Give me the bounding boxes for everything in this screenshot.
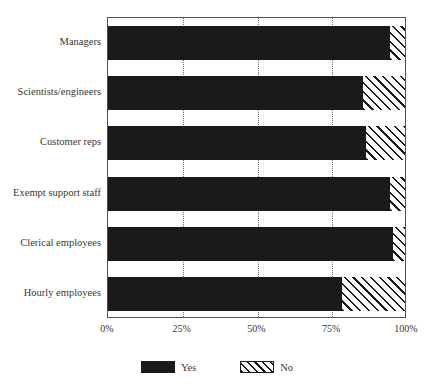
- x-axis-tick-label: 75%: [322, 322, 340, 335]
- x-axis-tick-label: 0%: [100, 322, 113, 335]
- y-axis-label-group: ManagersScientists/engineersCustomer rep…: [0, 17, 101, 318]
- bar-segment-no: [389, 177, 405, 211]
- bar-row: [108, 277, 405, 311]
- plot-area: [107, 17, 406, 318]
- bar-row: [108, 76, 405, 110]
- bar-segment-no: [392, 227, 405, 261]
- bar-row: [108, 26, 405, 60]
- y-axis-tick-label: Scientists/engineers: [0, 86, 101, 98]
- legend-item: No: [240, 361, 293, 373]
- bar-segment-yes: [108, 177, 389, 211]
- bar-row: [108, 227, 405, 261]
- bar-row: [108, 126, 405, 160]
- legend-label: Yes: [181, 362, 196, 373]
- bar-segment-yes: [108, 277, 341, 311]
- bar-segment-yes: [108, 227, 392, 261]
- bar-segment-yes: [108, 76, 362, 110]
- x-axis-tick-label: 50%: [247, 322, 265, 335]
- bar-segment-no: [341, 277, 405, 311]
- bars-layer: [108, 18, 405, 317]
- x-axis-tick-label: 25%: [173, 322, 191, 335]
- bar-segment-yes: [108, 26, 389, 60]
- chart-legend: YesNo: [0, 356, 434, 378]
- y-axis-tick-label: Managers: [0, 36, 101, 48]
- legend-label: No: [280, 362, 293, 373]
- hatched-swatch: [240, 361, 274, 373]
- y-axis-tick-label: Clerical employees: [0, 237, 101, 249]
- bar-segment-no: [389, 26, 405, 60]
- bar-segment-yes: [108, 126, 365, 160]
- x-axis-tick-label: 100%: [394, 322, 417, 335]
- y-axis-tick-label: Hourly employees: [0, 287, 101, 299]
- y-axis-tick-label: Exempt support staff: [0, 187, 101, 199]
- legend-item: Yes: [141, 361, 196, 373]
- y-axis-tick-label: Customer reps: [0, 136, 101, 148]
- stacked-bar-chart: ManagersScientists/engineersCustomer rep…: [0, 0, 434, 386]
- solid-black-swatch: [141, 361, 175, 373]
- bar-segment-no: [362, 76, 405, 110]
- bar-row: [108, 177, 405, 211]
- x-axis-label-group: 0%25%50%75%100%: [0, 322, 434, 338]
- bar-segment-no: [365, 126, 405, 160]
